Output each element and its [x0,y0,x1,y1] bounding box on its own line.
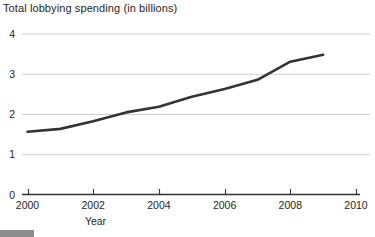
caption-badge [0,230,34,237]
x-axis-tick-label: 2002 [73,200,113,211]
x-axis-ticks [29,189,357,195]
x-axis-tick-label: 2008 [270,200,310,211]
caption-bar [0,230,375,237]
y-axis-tick-label: 0 [1,190,15,201]
data-series-line [28,55,324,132]
x-axis-tick-label: 2010 [336,200,375,211]
x-axis-tick-label: 2000 [8,200,48,211]
y-axis-tick-label: 3 [1,69,15,80]
y-axis-tick-label: 2 [1,109,15,120]
y-axis-tick-label: 4 [1,29,15,40]
x-axis-title-text: Year [85,215,106,227]
gridlines [22,34,370,195]
line-chart-plot [0,0,375,237]
x-axis-title: Year [0,215,375,227]
chart-figure: Total lobbying spending (in billions) 01… [0,0,375,237]
y-axis-tick-label: 1 [1,149,15,160]
x-axis-tick-label: 2006 [205,200,245,211]
x-axis-tick-label: 2004 [139,200,179,211]
